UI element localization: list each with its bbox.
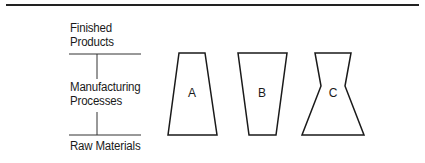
shape-c-label: C: [329, 86, 338, 100]
diagram-canvas: A B C: [0, 0, 425, 163]
shape-b-label: B: [258, 86, 266, 100]
shape-a-label: A: [188, 86, 196, 100]
